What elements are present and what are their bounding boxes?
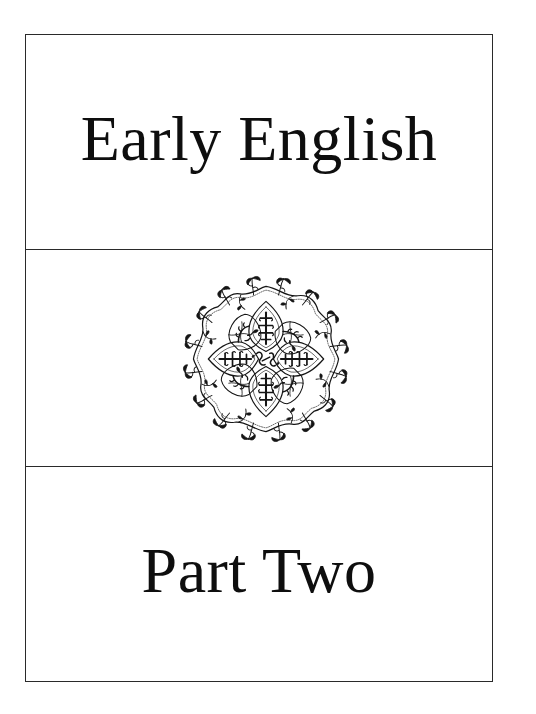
floral-rosette-icon <box>173 263 359 455</box>
title-panel: Early English <box>26 35 492 250</box>
title-page-frame: Early English <box>25 34 493 682</box>
page-title: Early English <box>81 107 438 171</box>
page-subtitle: Part Two <box>142 539 377 603</box>
subtitle-panel: Part Two <box>26 467 492 681</box>
ornament-panel <box>26 251 492 467</box>
